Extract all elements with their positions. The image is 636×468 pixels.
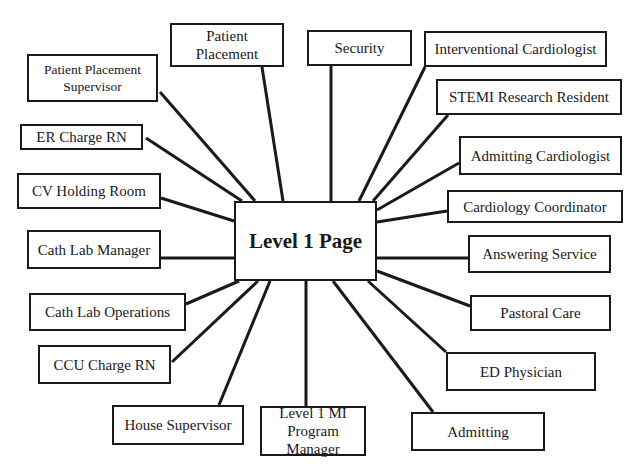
node-label: ED Physician: [480, 363, 562, 381]
node-label: Level 1 MI Program Manager: [266, 404, 360, 458]
node-patient-placement-supervisor: Patient Placement Supervisor: [27, 54, 158, 102]
node-cv-holding-room: CV Holding Room: [17, 173, 161, 209]
node-pastoral-care: Pastoral Care: [470, 295, 611, 331]
node-house-supervisor: House Supervisor: [112, 405, 244, 445]
node-label: Cardiology Coordinator: [463, 198, 607, 216]
connector-cath-lab-operations: [186, 281, 239, 304]
node-admitting-cardiologist: Admitting Cardiologist: [459, 136, 622, 175]
node-answering-service: Answering Service: [468, 235, 611, 273]
node-stemi-research-resident: STEMI Research Resident: [436, 79, 622, 115]
node-label: ER Charge RN: [36, 128, 127, 146]
center-node-label: Level 1 Page: [249, 232, 362, 250]
connector-cardiology-coordinator: [377, 211, 447, 222]
node-label: STEMI Research Resident: [449, 88, 609, 106]
node-label: CCU Charge RN: [53, 356, 155, 374]
node-ed-physician: ED Physician: [446, 352, 596, 391]
connector-admitting: [333, 281, 433, 412]
connector-cv-holding-room: [161, 198, 234, 221]
node-label: Pastoral Care: [500, 304, 580, 322]
connector-patient-placement-supervisor: [160, 92, 255, 201]
node-label: Patient Placement: [196, 27, 258, 63]
connector-stemi-research-resident: [373, 115, 448, 201]
node-label: Cath Lab Operations: [45, 303, 170, 321]
node-label: Answering Service: [482, 245, 597, 263]
node-label: Interventional Cardiologist: [434, 40, 596, 58]
level-1-page-diagram: Patient Placement SupervisorPatient Plac…: [0, 0, 636, 468]
connector-patient-placement: [262, 67, 283, 201]
node-label: Patient Placement Supervisor: [44, 61, 141, 95]
node-er-charge-rn: ER Charge RN: [20, 124, 143, 150]
node-cardiology-coordinator: Cardiology Coordinator: [447, 190, 623, 223]
node-label: Security: [335, 39, 385, 57]
connector-house-supervisor: [219, 281, 270, 405]
node-interventional-cardiologist: Interventional Cardiologist: [424, 31, 607, 67]
node-security: Security: [307, 30, 412, 66]
node-label: Cath Lab Manager: [38, 241, 150, 259]
node-cath-lab-operations: Cath Lab Operations: [29, 293, 186, 331]
node-label: Admitting Cardiologist: [471, 147, 611, 165]
node-label: House Supervisor: [124, 416, 231, 434]
node-label: Admitting: [447, 423, 509, 441]
center-node-level-1-page: Level 1 Page: [234, 201, 377, 281]
node-admitting: Admitting: [411, 412, 545, 451]
node-level-1-mi-program-manager: Level 1 MI Program Manager: [260, 406, 366, 456]
node-patient-placement: Patient Placement: [170, 23, 284, 67]
node-label: CV Holding Room: [32, 182, 146, 200]
node-ccu-charge-rn: CCU Charge RN: [38, 345, 171, 384]
node-cath-lab-manager: Cath Lab Manager: [27, 230, 161, 269]
